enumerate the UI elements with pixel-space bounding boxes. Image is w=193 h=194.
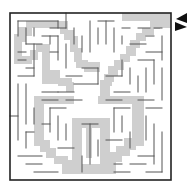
solution-path: [14, 13, 171, 174]
path-cell: [136, 33, 146, 41]
exit-arrow-icon: [175, 22, 187, 31]
path-cell: [122, 13, 171, 21]
path-cell: [34, 96, 44, 146]
path-cell: [100, 84, 110, 96]
maze-puzzle: [0, 0, 193, 194]
entrance-arrow-icon: [176, 13, 187, 23]
path-cell: [66, 82, 74, 92]
path-cell: [74, 48, 82, 62]
path-cell: [80, 164, 108, 174]
maze-canvas: [0, 0, 193, 194]
